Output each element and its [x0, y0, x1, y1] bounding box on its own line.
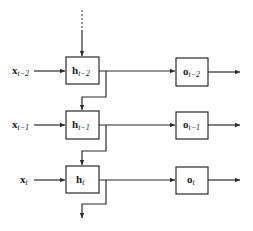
- input-label-x-t: xt: [20, 173, 29, 187]
- row-t-minus-2: xt−2 ht−2 ot−2: [12, 57, 240, 110]
- row-t: xt ht ot: [20, 166, 240, 218]
- row-t-minus-1: xt−1 ht−1 ot−1: [12, 111, 240, 165]
- input-label-x-t-1: xt−1: [12, 118, 29, 132]
- input-label-x-t-2: xt−2: [12, 64, 29, 78]
- rnn-unrolled-diagram: xt−2 ht−2 ot−2 xt−1 ht−1 ot−1 xt ht ot: [0, 0, 253, 231]
